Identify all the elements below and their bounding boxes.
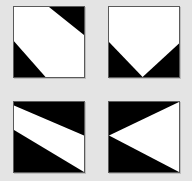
tile-top-left-diagonal-corners (13, 6, 85, 78)
tile-bottom-right-shape (109, 102, 179, 172)
dark-region-top (14, 102, 84, 136)
tile-bottom-right-arrow (108, 101, 180, 173)
tile-bottom-left-band (13, 101, 85, 173)
dark-triangle-bottom-right (143, 43, 179, 77)
tile-top-right-shape (109, 7, 179, 77)
dark-region-top (109, 102, 179, 136)
dark-triangle-bottom-left (109, 42, 143, 77)
dark-triangle-bottom-left (14, 41, 46, 77)
tile-top-right-pentagon (108, 6, 180, 78)
tile-bottom-left-shape (14, 102, 84, 172)
dark-triangle-top-right (49, 7, 84, 35)
dark-region-bottom (14, 130, 84, 172)
dark-region-bottom (109, 136, 179, 172)
tile-top-left-shape (14, 7, 84, 77)
